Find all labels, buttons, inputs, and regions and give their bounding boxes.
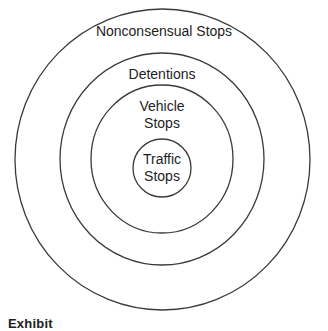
label-traffic-stops-line2: Stops [132,168,192,185]
label-vehicle-stops-line2: Stops [122,115,202,132]
label-nonconsensual-stops: Nonconsensual Stops [82,23,246,40]
label-vehicle-stops-line1: Vehicle [122,98,202,115]
label-traffic-stops-line1: Traffic [132,151,192,168]
label-vehicle-stops: Vehicle Stops [122,98,202,132]
figure-caption: Exhibit [8,316,53,331]
label-detentions-text: Detentions [112,66,212,83]
label-traffic-stops: Traffic Stops [132,151,192,185]
label-nonconsensual-stops-text: Nonconsensual Stops [82,23,246,40]
label-detentions: Detentions [112,66,212,83]
caption-prefix: Exhibit [8,316,53,331]
